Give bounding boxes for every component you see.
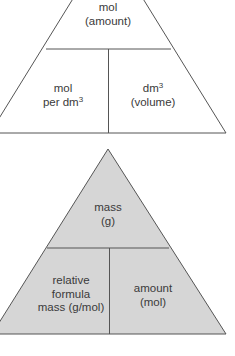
mass-label-line1: mass <box>94 201 121 215</box>
rfm-label-line2: formula <box>38 288 104 302</box>
amount-label-line1: mol <box>85 1 131 15</box>
relative-formula-mass-label: relative formula mass (g/mol) <box>38 274 104 315</box>
concentration-label-line2: per dm3 <box>43 96 83 110</box>
rfm-label-line3: mass (g/mol) <box>38 301 104 315</box>
mass-label-line2: (g) <box>94 215 121 229</box>
mass-triangle-outline <box>0 149 226 334</box>
moles-label-line1: amount <box>134 282 172 296</box>
concentration-label: mol per dm3 <box>43 82 83 109</box>
amount-label: mol (amount) <box>85 1 131 28</box>
rfm-label-line1: relative <box>38 274 104 288</box>
concentration-label-line1: mol <box>43 82 83 96</box>
moles-label: amount (mol) <box>134 282 172 309</box>
volume-label: dm3 (volume) <box>131 82 176 109</box>
triangles-graphic <box>0 0 235 356</box>
mass-label: mass (g) <box>94 201 121 228</box>
amount-label-line2: (amount) <box>85 15 131 29</box>
mass-triangle <box>0 149 226 334</box>
volume-label-line1: dm3 <box>131 82 176 96</box>
moles-label-line2: (mol) <box>134 296 172 310</box>
volume-label-line2: (volume) <box>131 96 176 110</box>
